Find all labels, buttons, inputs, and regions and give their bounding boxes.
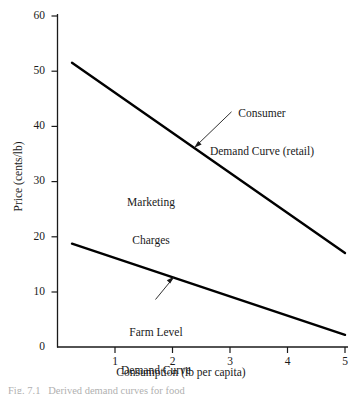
- y-axis-title: Price (cents/lb): [12, 106, 25, 246]
- y-tick-label-60: 60: [19, 9, 45, 22]
- annotation-farm-level-demand-curve: Farm Level Demand Curve: [100, 300, 212, 394]
- annotation-farm-line-1: Farm Level: [100, 326, 212, 339]
- annotation-arrow-farm: [156, 277, 175, 300]
- annotation-marketing-line-1: Marketing: [108, 196, 194, 209]
- annotation-consumer-demand-curve: Consumer Demand Curve (retail): [182, 81, 342, 184]
- figure-container: 60 50 40 30 20 10 0 1 2 3 4 5 Consumptio…: [0, 0, 362, 394]
- y-tick-label-10: 10: [19, 285, 45, 298]
- y-tick-label-50: 50: [19, 64, 45, 77]
- annotation-marketing-line-2: Charges: [108, 234, 194, 247]
- annotation-marketing-charges: Marketing Charges: [108, 170, 194, 273]
- y-tick-label-0: 0: [19, 340, 45, 353]
- figure-caption: Fig. 7.1 Derived demand curves for food: [8, 385, 348, 394]
- annotation-consumer-line-2: Demand Curve (retail): [182, 145, 342, 158]
- annotation-consumer-line-1: Consumer: [182, 107, 342, 120]
- y-axis-ticks: [52, 16, 58, 292]
- annotation-farm-line-2: Demand Curve: [100, 364, 212, 377]
